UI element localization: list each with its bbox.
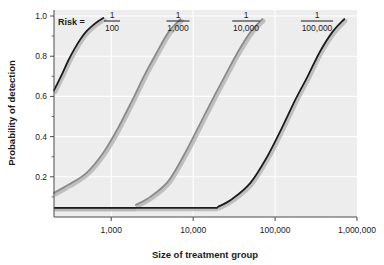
x-axis-ticks: [111, 217, 357, 221]
x-axis-tick-labels: 1,00010,000100,0001,000,000: [101, 225, 377, 235]
risk-denominator-2: 10,000: [233, 23, 259, 33]
y-axis-title: Probability of detection: [6, 60, 17, 166]
risk-denominator-1: 1,000: [167, 23, 189, 33]
x-tick-label: 10,000: [180, 225, 206, 235]
y-axis-tick-labels: 0.20.40.60.81.0: [35, 11, 47, 182]
risk-numerator-0: 1: [110, 10, 115, 20]
x-tick-label: 1,000: [101, 225, 123, 235]
risk-denominator-0: 100: [105, 23, 119, 33]
x-tick-label: 100,000: [260, 225, 291, 235]
y-tick-label: 0.2: [35, 172, 47, 182]
risk-denominator-3: 100,000: [302, 23, 333, 33]
y-axis-ticks: [50, 16, 54, 197]
y-tick-label: 0.8: [35, 51, 47, 61]
y-tick-label: 0.6: [35, 91, 47, 101]
chart-figure: 0.20.40.60.81.0 1,00010,000100,0001,000,…: [0, 0, 384, 265]
risk-numerator-3: 1: [315, 10, 320, 20]
detection-probability-chart: 0.20.40.60.81.0 1,00010,000100,0001,000,…: [0, 0, 384, 265]
risk-numerator-1: 1: [176, 10, 181, 20]
risk-numerator-2: 1: [244, 10, 249, 20]
risk-prefix-label: Risk =: [58, 17, 85, 27]
x-axis-title: Size of treatment group: [152, 249, 258, 260]
x-tick-label: 1,000,000: [338, 225, 376, 235]
y-tick-label: 1.0: [35, 11, 47, 21]
y-tick-label: 0.4: [35, 132, 47, 142]
